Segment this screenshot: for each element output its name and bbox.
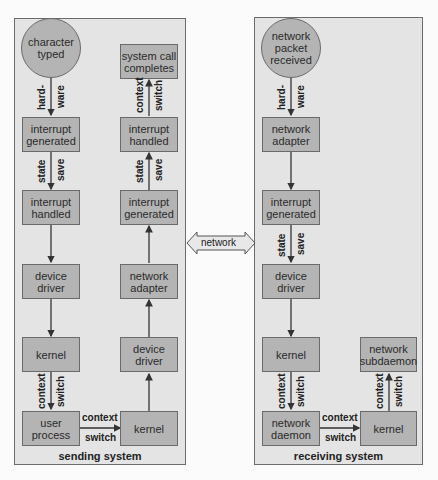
node-kernel: kernel <box>22 337 80 372</box>
node-interrupt-handled: interrupt handled <box>22 190 80 225</box>
node-system-call-completes: system call completes <box>120 44 178 79</box>
edge-label-switch: switch <box>55 376 66 407</box>
edge-label-context-recv: context <box>276 373 287 409</box>
edge-label-ware-recv: ware <box>295 85 306 108</box>
network-label: network <box>201 237 236 248</box>
edge-label-switch-recv: switch <box>295 376 306 407</box>
edge-label-context-h-recv: context <box>322 412 358 423</box>
edge-label-switch-recv-2: switch <box>393 376 404 407</box>
edge-label-switch-2: switch <box>153 80 164 111</box>
edge-label-state: state <box>36 160 47 183</box>
edge-label-context-h: context <box>82 412 118 423</box>
node-user-process: user process <box>22 411 80 446</box>
edge-label-state-recv: state <box>276 234 287 257</box>
edge-label-ware: ware <box>55 85 66 108</box>
node-network-adapter: network adapter <box>120 264 178 299</box>
edge-label-state-2: state <box>134 160 145 183</box>
edge-label-hard-recv: hard- <box>276 85 287 110</box>
node-kernel-recv: kernel <box>262 337 320 372</box>
edge-label-switch-h: switch <box>85 432 116 443</box>
edge-label-switch-h-recv: switch <box>325 432 356 443</box>
edge-label-hard: hard- <box>36 85 47 110</box>
node-device-driver-recv: device driver <box>262 264 320 299</box>
node-kernel-recv-2: kernel <box>360 411 417 446</box>
edge-label-context: context <box>36 373 47 409</box>
edge-label-context-recv-2: context <box>374 373 385 409</box>
sending-system-title: sending system <box>14 450 186 462</box>
receiving-system-title: receiving system <box>254 450 423 462</box>
node-interrupt-generated: interrupt generated <box>22 117 80 152</box>
node-interrupt-generated-2: interrupt generated <box>120 190 178 225</box>
node-device-driver: device driver <box>22 264 80 299</box>
edge-label-save-2: save <box>153 159 164 181</box>
node-network-daemon: network daemon <box>262 411 320 446</box>
node-interrupt-generated-recv: interrupt generated <box>262 190 320 225</box>
node-interrupt-handled-2: interrupt handled <box>120 117 178 152</box>
node-network-subdaemon: network subdaemon <box>360 337 417 372</box>
node-network-adapter-recv: network adapter <box>262 117 320 152</box>
node-character-typed: character typed <box>21 18 81 78</box>
edge-label-save-recv: save <box>295 233 306 255</box>
edge-label-save: save <box>55 159 66 181</box>
node-kernel-2: kernel <box>120 411 178 446</box>
node-network-packet-received: network packet received <box>261 18 321 78</box>
node-device-driver-2: device driver <box>120 337 178 372</box>
edge-label-context-2: context <box>134 77 145 113</box>
